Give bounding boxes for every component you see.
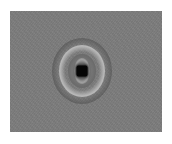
pattern-image [10, 11, 162, 132]
dark-core [77, 66, 88, 77]
